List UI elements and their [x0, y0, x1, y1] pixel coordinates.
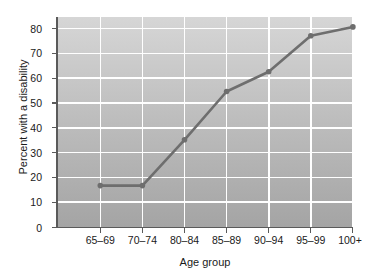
disability-by-age-line-chart: 0 10 20 30 40 50 60 70 80 65–69 70–74 80… — [0, 0, 368, 279]
x-axis-title: Age group — [57, 256, 353, 268]
x-tick-label: 85–89 — [212, 234, 241, 246]
y-axis-title: Percent with a disability — [15, 2, 31, 232]
x-axis-tick-labels: 65–69 70–74 80–84 85–89 90–94 95–99 100+ — [0, 0, 368, 279]
x-tick-label: 80–84 — [170, 234, 199, 246]
x-tick-label: 100+ — [338, 234, 362, 246]
x-tick-label: 95–99 — [296, 234, 325, 246]
x-tick-label: 65–69 — [86, 234, 115, 246]
x-tick-label: 70–74 — [128, 234, 157, 246]
x-tick-label: 90–94 — [254, 234, 283, 246]
